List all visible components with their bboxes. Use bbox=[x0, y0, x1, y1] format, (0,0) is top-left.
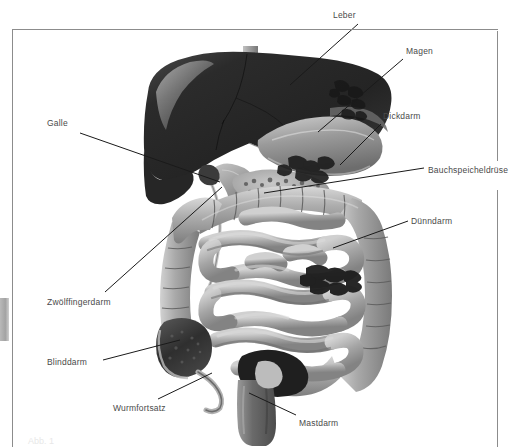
caption-partial: Abb. 1 bbox=[28, 436, 54, 446]
frame-right-border-upper bbox=[497, 31, 498, 161]
frame-left-border bbox=[12, 29, 13, 447]
label-zwoelffingerdarm: Zwölffingerdarm bbox=[47, 297, 111, 307]
frame-top-border bbox=[12, 29, 498, 30]
label-leber: Leber bbox=[333, 10, 356, 20]
label-bauchspeicheldruese: Bauchspeicheldrüse bbox=[428, 165, 508, 175]
label-mastdarm: Mastdarm bbox=[299, 418, 338, 428]
rectum-shape bbox=[237, 350, 308, 446]
label-wurmfortsatz: Wurmfortsatz bbox=[113, 403, 166, 413]
cecum-shape bbox=[156, 318, 212, 378]
label-blinddarm: Blinddarm bbox=[47, 357, 87, 367]
appendix-shape bbox=[198, 372, 222, 412]
frame-right-border-lower bbox=[497, 190, 498, 447]
page-edge-tab bbox=[0, 298, 9, 341]
figure-page: Leber Magen Dickdarm Bauchspeicheldrüse … bbox=[0, 0, 523, 447]
label-duenndarm: Dünndarm bbox=[411, 216, 452, 226]
label-galle: Galle bbox=[47, 118, 68, 128]
label-dickdarm: Dickdarm bbox=[383, 111, 421, 121]
label-magen: Magen bbox=[406, 46, 433, 56]
